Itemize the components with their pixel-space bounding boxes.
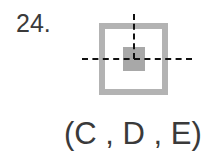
answer-choices: (C , D , E) xyxy=(64,114,202,154)
horizontal-dashed-axis xyxy=(82,58,192,60)
vertical-dashed-axis xyxy=(133,14,135,59)
question-number: 24. xyxy=(16,9,51,37)
